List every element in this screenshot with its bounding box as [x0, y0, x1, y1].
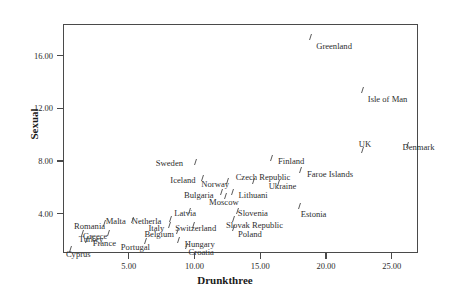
- data-point-label: Greenland: [316, 42, 352, 51]
- data-point-label: Norway: [201, 180, 229, 189]
- x-tick-mark: [260, 253, 261, 259]
- y-axis-title: Sexual: [28, 84, 40, 164]
- x-tick-mark: [325, 253, 326, 259]
- data-point-label: Croatia: [189, 248, 214, 257]
- x-tick-mark: [128, 253, 129, 259]
- y-tick-label: 16.00: [11, 51, 53, 61]
- data-point-label: UK: [359, 140, 371, 149]
- y-tick-mark: [57, 55, 63, 56]
- x-tick-label: 5.00: [104, 261, 154, 271]
- data-point-label: Isle of Man: [368, 95, 408, 104]
- data-point-label: Latvia: [174, 209, 196, 218]
- data-point-label: France: [93, 239, 116, 248]
- y-tick-label: 4.00: [11, 209, 53, 219]
- data-point-label: Moscow: [209, 198, 239, 207]
- data-point-label: Portugal: [121, 243, 150, 252]
- x-tick-label: 10.00: [169, 261, 219, 271]
- scatter-plot-screenshot: 4.008.0012.0016.00 5.0010.0015.0020.0025…: [0, 0, 450, 295]
- x-tick-label: 20.00: [301, 261, 351, 271]
- x-tick-label: 15.00: [235, 261, 285, 271]
- data-point-label: Sweden: [156, 159, 183, 168]
- data-point-label: Poland: [238, 230, 262, 239]
- data-point-label: Iceland: [170, 176, 195, 185]
- data-point-label: Finland: [278, 157, 304, 166]
- y-tick-mark: [57, 160, 63, 161]
- x-axis-title: Drunkthree: [0, 274, 450, 286]
- data-point-label: Romania: [74, 222, 105, 231]
- data-point-label: Faroe Islands: [307, 170, 353, 179]
- data-point-label: Ukraine: [269, 182, 297, 191]
- data-point-label: Estonia: [301, 210, 327, 219]
- data-point-label: Cyprus: [66, 250, 91, 259]
- data-point-label: Lithuani: [239, 191, 268, 200]
- data-point-label: Malta: [106, 217, 126, 226]
- data-point-label: Slovenia: [238, 209, 268, 218]
- x-tick-mark: [391, 253, 392, 259]
- y-tick-mark: [57, 108, 63, 109]
- data-point-label: Switzerland: [175, 224, 216, 233]
- data-point-label: Denmark: [402, 143, 434, 152]
- data-point-label: Belgium: [144, 230, 174, 239]
- x-tick-label: 25.00: [367, 261, 417, 271]
- y-tick-mark: [57, 213, 63, 214]
